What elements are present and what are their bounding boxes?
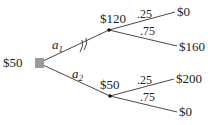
chance-node-a2 — [108, 94, 112, 98]
probability-a1-2: .75 — [140, 24, 155, 38]
pruned-branch-icon — [80, 38, 87, 52]
decision-node — [35, 58, 44, 68]
probability-a2-1: .25 — [137, 73, 152, 87]
outcome-a1-2: $160 — [179, 39, 205, 54]
decision-tree: $50 a1 a2 $120 $50 .25 .75 .25 .75 $0 $1… — [0, 0, 212, 125]
chance-node-a1 — [107, 28, 111, 32]
outcome-a2-1: $200 — [176, 71, 202, 86]
outcome-a1-1: $0 — [177, 4, 190, 19]
probability-a2-2: .75 — [140, 90, 155, 104]
chance-value-a1: $120 — [100, 11, 126, 26]
action-label-a1: a1 — [52, 37, 63, 54]
chance-value-a2: $50 — [100, 77, 120, 92]
probability-a1-1: .25 — [137, 7, 152, 21]
action-label-a2: a2 — [72, 66, 84, 83]
root-value: $50 — [3, 55, 23, 70]
outcome-a2-2: $0 — [179, 104, 192, 119]
